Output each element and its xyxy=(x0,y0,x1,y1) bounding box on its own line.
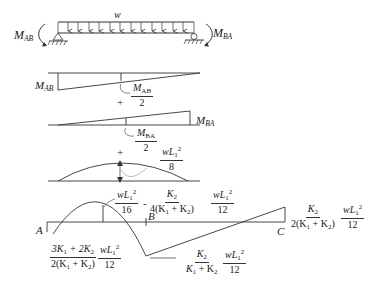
moment-diagram-mba xyxy=(48,111,200,136)
combined-bottom-fraction-2: wL12 12 xyxy=(223,249,246,276)
combined-top-fraction-2: K2 4(K1 + K2) xyxy=(148,189,196,217)
point-label-a: A xyxy=(36,225,43,236)
loaded-beam xyxy=(39,22,213,47)
load-label: w xyxy=(114,10,121,20)
diagram2-end-label: MBA xyxy=(196,115,214,128)
plus-sign-2: + xyxy=(117,146,123,158)
roller-support-icon xyxy=(184,34,204,45)
diagram2-mid-fraction: MBA 2 xyxy=(135,128,157,154)
diagram3-mid-fraction: wL12 8 xyxy=(160,146,183,173)
combined-top-fraction-3: wL12 12 xyxy=(211,189,234,216)
combined-top-minus: - xyxy=(143,197,147,209)
combined-right-fraction-1: K2 2(K1 + K2) xyxy=(289,204,337,232)
moment-label-mba: MBA xyxy=(213,27,232,41)
plus-sign-1: + xyxy=(117,96,123,108)
combined-right-fraction-2: wL12 12 xyxy=(341,204,364,231)
moment-arc-left-icon xyxy=(39,24,46,45)
combined-top-fraction-1: wL12 16 xyxy=(115,189,138,216)
point-label-c: C xyxy=(277,226,284,237)
combined-bottom-fraction-1: K2 K1 + K2 xyxy=(184,249,220,277)
combined-left-fraction-1: 3K1 + 2K2 2(K1 + K2) xyxy=(49,244,97,272)
distributed-load-arrows xyxy=(58,22,194,33)
moment-arc-right-icon xyxy=(205,24,212,45)
moment-diagram-mab xyxy=(48,73,200,93)
diagram1-mid-fraction: MAB 2 xyxy=(131,83,153,109)
pin-support-icon xyxy=(48,33,68,45)
diagram1-end-label: MAB xyxy=(35,80,53,93)
moment-label-mab: MAB xyxy=(14,29,33,43)
combined-left-fraction-2: wL12 12 xyxy=(98,244,121,271)
